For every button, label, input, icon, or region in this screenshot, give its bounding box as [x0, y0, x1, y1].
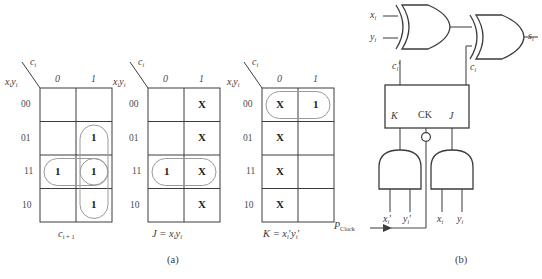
- kmap-j-grid: [130, 62, 220, 222]
- kmap-k-grid: [244, 62, 334, 222]
- circuit-input-y-label: yi: [370, 32, 376, 43]
- kmap-k-col-header-1: 1: [313, 74, 318, 84]
- kmap-j-cell-10-1: X: [198, 199, 206, 210]
- kmap-j-cell-01-1: X: [198, 132, 206, 143]
- kmap-carry-row-var: xiyi: [5, 77, 17, 88]
- kmap-carry-row-header-10: 10: [22, 201, 32, 211]
- flipflop-ck-input-label: CK: [418, 110, 432, 120]
- kmap-k-cell-00-1: 1: [313, 99, 319, 110]
- flipflop-output-q-prime-label: ci′: [392, 61, 400, 72]
- kmap-j-row-header-10: 10: [130, 201, 140, 211]
- kmap-carry-row-header-11: 11: [24, 167, 33, 177]
- kmap-k-col-header-0: 0: [277, 74, 282, 84]
- kmap-j-row-header-01: 01: [129, 134, 139, 144]
- kmap-k-cell-01-0: X: [276, 132, 284, 143]
- kmap-j-cell-11-0: 1: [164, 166, 170, 177]
- kmap-k-cell-00-0: X: [276, 99, 284, 110]
- kmap-k-cell-11-0: X: [276, 166, 284, 177]
- kmap-carry-cell-10-1: 1: [91, 199, 97, 210]
- clock-inversion-bubble: [422, 133, 431, 142]
- kmap-j-row-header-00: 00: [129, 100, 139, 110]
- circuit-input-x-label: xi: [370, 10, 376, 21]
- kmap-k-cell-10-0: X: [276, 199, 284, 210]
- kmap-carry-col-var: ci: [30, 57, 36, 68]
- figure-root: ci xiyi 0 1 00 01 11 10 1 1 1 1 ci + 1 c…: [0, 0, 542, 279]
- flipflop-k-input-label: K: [391, 111, 398, 121]
- kmap-k-row-header-10: 10: [244, 201, 254, 211]
- and-left-input-x-prime-label: xi′: [383, 214, 391, 225]
- clock-input-label: PClock: [334, 221, 355, 232]
- flipflop-j-input-label: J: [449, 111, 453, 121]
- kmap-j-col-header-0: 0: [163, 74, 168, 84]
- panel-a-label: (a): [167, 255, 179, 266]
- panel-b-label: (b): [455, 255, 467, 266]
- kmap-j-caption: J = xiyi: [152, 229, 182, 240]
- kmap-j-cell-11-1: X: [198, 166, 206, 177]
- and-right-input-y-label: yi: [457, 214, 463, 225]
- and-right-input-x-label: xi: [437, 214, 443, 225]
- xor-gate-2: [470, 15, 524, 59]
- kmap-carry-grid: [22, 62, 112, 222]
- kmap-j-row-var: xiyi: [113, 77, 125, 88]
- kmap-carry-cell-01-1: 1: [91, 132, 97, 143]
- kmap-k-row-var: xiyi: [227, 77, 239, 88]
- kmap-carry-caption: ci + 1: [58, 229, 75, 240]
- kmap-k-row-header-11: 11: [246, 167, 255, 177]
- flipflop-output-q-label: ci: [470, 62, 476, 73]
- and-left-input-y-prime-label: yi′: [403, 214, 411, 225]
- kmap-carry-cell-11-1: 1: [91, 166, 97, 177]
- and-gate-left: [379, 150, 421, 189]
- kmap-k-row-header-00: 00: [243, 100, 253, 110]
- kmap-carry-row-header-00: 00: [21, 100, 31, 110]
- and-gate-right: [431, 150, 473, 189]
- kmap-j-col-var: ci: [138, 57, 144, 68]
- kmap-carry-col-header-1: 1: [91, 74, 96, 84]
- circuit-output-s-label: si: [528, 31, 534, 42]
- kmap-k-col-var: ci: [252, 57, 258, 68]
- kmap-j-col-header-1: 1: [199, 74, 204, 84]
- kmap-carry-col-header-0: 0: [55, 74, 60, 84]
- kmap-carry-row-header-01: 01: [21, 134, 31, 144]
- kmap-k-caption: K = xi′yi′: [263, 229, 300, 240]
- jk-flipflop-body: [385, 85, 469, 128]
- kmap-k-row-header-01: 01: [243, 134, 253, 144]
- kmap-carry-cell-11-0: 1: [55, 166, 61, 177]
- kmap-j-cell-00-1: X: [198, 99, 206, 110]
- xor-gate-1: [396, 5, 450, 49]
- kmap-j-row-header-11: 11: [132, 167, 141, 177]
